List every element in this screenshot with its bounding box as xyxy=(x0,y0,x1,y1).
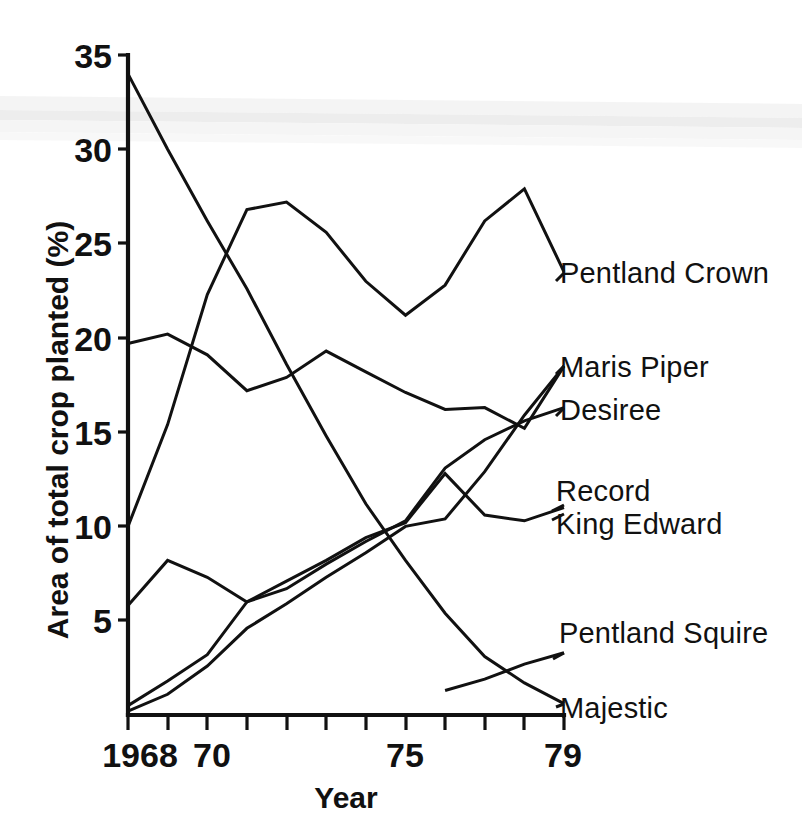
series-label-pentland-crown: Pentland Crown xyxy=(560,257,769,289)
series-line-majestic xyxy=(128,74,564,704)
scan-artifact-band xyxy=(0,96,802,148)
series-line-king-edward xyxy=(128,334,564,428)
chart-figure: 35 30 25 20 15 10 5 1968 70 75 79 Year A… xyxy=(0,0,802,832)
y-tick-label-15: 15 xyxy=(74,414,112,452)
x-axis-ticks xyxy=(128,715,564,730)
series-label-record: Record xyxy=(556,475,651,507)
series-line-record xyxy=(128,474,564,606)
series-label-pentland-squire: Pentland Squire xyxy=(559,617,768,649)
series-label-majestic: Majestic xyxy=(560,692,668,724)
x-tick-label-75: 75 xyxy=(386,736,424,774)
series-label-king-edward: King Edward xyxy=(556,508,723,540)
series-line-pentland-squire xyxy=(445,653,564,691)
y-tick-label-20: 20 xyxy=(74,320,112,358)
series-label-maris-piper: Maris Piper xyxy=(560,351,709,383)
y-tick-label-5: 5 xyxy=(93,602,112,640)
axes-group: 35 30 25 20 15 10 5 1968 70 75 79 Year A… xyxy=(41,37,582,814)
series-labels-group: Pentland Crown Maris Piper Desiree Recor… xyxy=(552,257,769,724)
y-tick-label-10: 10 xyxy=(74,508,112,546)
y-axis-title: Area of total crop planted (%) xyxy=(41,221,74,639)
x-tick-label-79: 79 xyxy=(544,736,582,774)
series-line-maris-piper xyxy=(128,366,564,711)
chart-svg: 35 30 25 20 15 10 5 1968 70 75 79 Year A… xyxy=(0,0,802,832)
series-label-desiree: Desiree xyxy=(560,394,661,426)
x-tick-label-1968: 1968 xyxy=(102,736,178,774)
y-tick-label-25: 25 xyxy=(74,225,112,263)
y-tick-label-30: 30 xyxy=(74,131,112,169)
y-tick-label-35: 35 xyxy=(74,37,112,75)
series-line-pentland-crown xyxy=(128,189,564,527)
x-axis-title: Year xyxy=(314,781,378,814)
x-tick-label-70: 70 xyxy=(193,736,231,774)
